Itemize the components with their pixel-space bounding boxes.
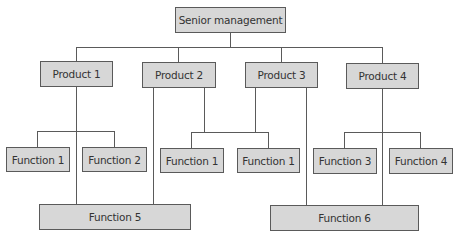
node-function-1-b: Function 1 <box>160 148 224 173</box>
connector-line <box>114 131 115 147</box>
connector-line <box>382 88 383 205</box>
connector-line <box>191 132 269 133</box>
connector-line <box>76 47 77 61</box>
connector-line <box>281 47 282 62</box>
connector-line <box>255 87 256 132</box>
connector-line <box>420 132 421 148</box>
connector-line <box>76 47 383 48</box>
connector-line <box>268 132 269 148</box>
connector-line <box>37 131 38 147</box>
node-function-6: Function 6 <box>270 205 419 231</box>
node-function-1-c: Function 1 <box>237 148 300 173</box>
node-function-1-a: Function 1 <box>6 147 70 172</box>
node-function-5: Function 5 <box>39 204 191 230</box>
connector-line <box>191 132 192 148</box>
connector-line <box>344 132 345 148</box>
connector-line <box>153 87 154 204</box>
node-function-4: Function 4 <box>389 148 453 174</box>
node-product-2: Product 2 <box>142 62 216 88</box>
node-product-3: Product 3 <box>245 62 318 88</box>
connector-line <box>344 132 421 133</box>
node-senior-management: Senior management <box>175 7 286 33</box>
connector-line <box>306 87 307 205</box>
connector-line <box>76 86 77 204</box>
node-function-3: Function 3 <box>313 148 377 174</box>
connector-line <box>37 131 114 132</box>
connector-line <box>230 32 231 47</box>
connector-line <box>382 47 383 63</box>
node-product-1: Product 1 <box>40 61 113 87</box>
node-function-2: Function 2 <box>82 147 147 172</box>
node-product-4: Product 4 <box>346 63 419 89</box>
connector-line <box>178 47 179 62</box>
connector-line <box>204 87 205 132</box>
